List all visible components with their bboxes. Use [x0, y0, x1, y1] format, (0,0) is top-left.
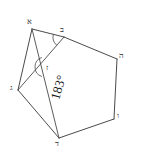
- vertex-label-E: ד: [55, 140, 59, 148]
- edge-BC: [64, 37, 117, 59]
- edge-FA: [18, 29, 32, 90]
- vertex-label-G: ז: [46, 64, 48, 72]
- vertex-label-A: א: [27, 18, 32, 26]
- edge-CD: [114, 59, 117, 119]
- geometry-figure: [0, 0, 145, 155]
- vertex-label-D: ו: [117, 112, 119, 120]
- vertex-label-F: ג: [10, 84, 13, 92]
- diagram-canvas: אבהודגז 183°: [0, 0, 145, 155]
- edge-DE: [59, 119, 114, 138]
- vertex-label-B: ב: [60, 26, 64, 34]
- arc-at-B: [53, 34, 57, 45]
- vertex-label-C: ה: [119, 52, 124, 60]
